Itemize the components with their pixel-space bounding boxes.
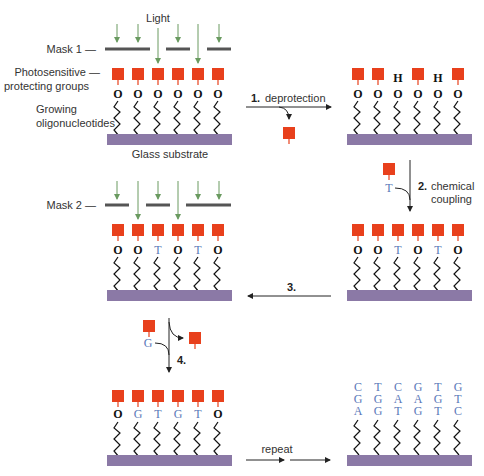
svg-text:H: H — [433, 71, 443, 85]
step-2-label-2: coupling — [431, 193, 472, 205]
protecting-groups — [352, 68, 464, 85]
oligo-chains — [354, 420, 460, 455]
step-1-number: 1. — [251, 92, 260, 104]
diagram-canvas: Light Mask 1 — Photosensitive — protecti… — [0, 0, 484, 476]
svg-text:O: O — [113, 243, 122, 257]
step-2-number: 2. — [418, 180, 427, 192]
released-protecting-group — [283, 127, 295, 144]
photosensitive-label: Photosensitive — — [14, 66, 100, 78]
repeat-label: repeat — [261, 443, 292, 455]
growing-label: Growing — [36, 103, 77, 115]
step-1-label: deprotection — [265, 92, 326, 104]
panel-3: Mask 2 — O O T O T O — [46, 181, 232, 301]
svg-text:G: G — [374, 404, 383, 418]
protecting-groups — [112, 224, 224, 241]
svg-text:O: O — [373, 243, 382, 257]
svg-text:T: T — [154, 407, 162, 421]
svg-text:T: T — [394, 243, 402, 257]
svg-text:C: C — [454, 404, 462, 418]
step-2-label-1: chemical — [431, 180, 474, 192]
oligo-chains — [354, 257, 460, 292]
svg-text:G: G — [174, 407, 183, 421]
svg-text:T: T — [394, 404, 402, 418]
svg-text:O: O — [453, 243, 462, 257]
svg-text:O: O — [393, 87, 402, 101]
svg-text:O: O — [153, 87, 162, 101]
panel-2: H H O O O O O O — [347, 68, 472, 145]
oligonucleotides-label: oligonucleotides — [36, 117, 115, 129]
protecting-groups-label: protecting groups — [4, 80, 89, 92]
light-arrows — [117, 181, 219, 219]
sequence-row-2: G G A A G T — [354, 392, 463, 406]
svg-text:G: G — [414, 404, 423, 418]
svg-text:O: O — [173, 243, 182, 257]
svg-text:G: G — [134, 407, 143, 421]
svg-text:O: O — [113, 87, 122, 101]
glass-substrate — [107, 134, 232, 145]
svg-text:O: O — [113, 407, 122, 421]
svg-text:O: O — [353, 87, 362, 101]
step-2-chemical-coupling: T 2. chemical coupling — [383, 160, 474, 211]
svg-text:O: O — [413, 243, 422, 257]
svg-text:O: O — [373, 87, 382, 101]
svg-text:O: O — [213, 243, 222, 257]
glass-substrate — [107, 455, 232, 466]
step-4: G 4. — [143, 318, 201, 372]
svg-text:T: T — [154, 243, 162, 257]
panel-6-final-array: C T C G T G G G A A G T A G T G T C — [347, 380, 472, 466]
svg-text:O: O — [133, 87, 142, 101]
oligo-chains — [114, 101, 220, 136]
svg-text:A: A — [354, 404, 363, 418]
oligo-chains — [114, 257, 220, 292]
repeat-step: repeat — [246, 443, 330, 460]
oligo-chains — [114, 422, 220, 457]
oligo-chains — [354, 101, 460, 136]
glass-substrate — [347, 134, 472, 145]
svg-text:O: O — [353, 243, 362, 257]
chain-letters: O G T G T O — [113, 407, 222, 421]
reagent-t: T — [385, 181, 393, 195]
svg-text:O: O — [433, 87, 442, 101]
svg-text:O: O — [193, 87, 202, 101]
svg-text:T: T — [434, 404, 442, 418]
glass-substrate-label: Glass substrate — [132, 148, 208, 160]
protecting-groups — [352, 224, 464, 241]
glass-substrate — [107, 290, 232, 301]
svg-text:O: O — [213, 407, 222, 421]
released-protecting-group — [189, 332, 201, 349]
panel-1: Light Mask 1 — Photosensitive — protecti… — [4, 12, 232, 160]
light-arrows — [117, 24, 219, 63]
chain-letters: O O O O O O — [353, 87, 462, 101]
chain-letters: O O O O O O — [113, 87, 222, 101]
protecting-groups — [112, 390, 224, 407]
step-3-number: 3. — [287, 281, 296, 293]
svg-text:T: T — [434, 243, 442, 257]
chain-letters: O O T O T O — [113, 243, 222, 257]
mask-1-label: Mask 1 — — [46, 43, 96, 55]
sequence-row-1: C T C G T G — [354, 380, 463, 394]
svg-text:O: O — [413, 87, 422, 101]
panel-4: O O T O T O — [347, 224, 472, 301]
svg-text:T: T — [194, 243, 202, 257]
svg-text:O: O — [133, 243, 142, 257]
step-3: 3. — [248, 281, 331, 296]
glass-substrate — [347, 290, 472, 301]
mask-2-label: Mask 2 — — [46, 199, 96, 211]
svg-text:O: O — [453, 87, 462, 101]
svg-text:O: O — [173, 87, 182, 101]
svg-text:O: O — [213, 87, 222, 101]
step-1-deprotection: 1. deprotection — [246, 92, 331, 144]
svg-text:T: T — [194, 407, 202, 421]
svg-text:H: H — [393, 71, 403, 85]
step-4-number: 4. — [177, 354, 186, 366]
protecting-groups — [112, 68, 224, 85]
sequence-row-3: A G T G T C — [354, 404, 462, 418]
glass-substrate — [347, 455, 472, 466]
chain-letters: O O T O T O — [353, 243, 462, 257]
light-label: Light — [146, 12, 170, 24]
panel-5: O G T G T O — [107, 390, 232, 466]
reagent-g: G — [144, 336, 153, 350]
